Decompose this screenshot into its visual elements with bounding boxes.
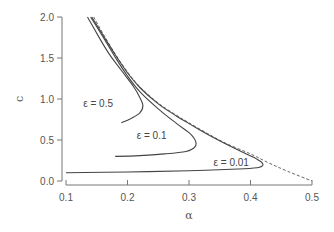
x-tick-label: 0.5 (305, 192, 319, 203)
annotation-label: ε = 0.5 (83, 98, 113, 109)
x-tick-label: 0.4 (244, 192, 258, 203)
y-tick-label: 0.5 (40, 135, 54, 146)
annotation-label: ε = 0.01 (214, 157, 250, 168)
x-tick-label: 0.3 (182, 192, 196, 203)
annotation-label: ε = 0.1 (137, 130, 167, 141)
axes: 0.10.20.30.40.50.00.51.01.52.0 (40, 12, 319, 204)
x-tick-label: 0.1 (59, 192, 73, 203)
y-tick-label: 2.0 (40, 12, 54, 23)
annotations: ε = 0.5ε = 0.1ε = 0.01 (83, 98, 249, 168)
x-tick-label: 0.2 (121, 192, 135, 203)
y-tick-label: 0.0 (40, 176, 54, 187)
y-tick-label: 1.5 (40, 53, 54, 64)
series-0p01-line (66, 17, 263, 173)
x-axis-label: α (185, 209, 193, 222)
chart: 0.10.20.30.40.50.00.51.01.52.0 ε = 0.5ε … (0, 0, 334, 232)
y-axis-label: c (13, 96, 26, 102)
y-tick-label: 1.0 (40, 94, 54, 105)
